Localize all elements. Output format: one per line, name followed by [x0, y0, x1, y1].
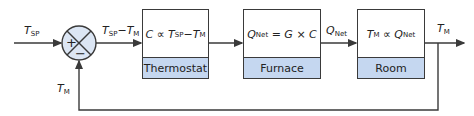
thermostat-block: C ∝ TSP−TM Thermostat [142, 9, 209, 79]
room-equation: TM ∝ QNet [358, 10, 424, 59]
feedback-label: TM [57, 82, 70, 96]
thermostat-label: Thermostat [143, 57, 208, 78]
heat-label: QNet [326, 24, 347, 38]
thermostat-equation: C ∝ TSP−TM [143, 10, 208, 59]
room-label: Room [358, 57, 424, 78]
room-block: TM ∝ QNet Room [357, 9, 425, 79]
furnace-label: Furnace [244, 57, 320, 78]
furnace-block: QNet = G × C Furnace [243, 9, 321, 79]
input-label: TSP [24, 24, 39, 38]
error-label: TSP−TM [102, 24, 139, 38]
minus-sign: − [75, 46, 86, 61]
furnace-equation: QNet = G × C [244, 10, 320, 59]
output-label: TM [437, 22, 450, 36]
